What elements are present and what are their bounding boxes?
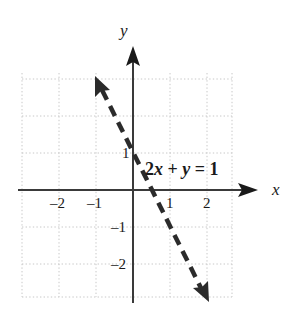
equation-variable-y: y [182,159,190,179]
y-axis-label: y [120,22,128,39]
x-tick-label-2: 2 [203,196,211,211]
x-axis-label: x [272,181,280,198]
grid-lines [22,73,232,297]
equation-plus-sign: + [168,159,178,179]
graph-figure: –2 –1 1 2 1 –1 –2 y x 2x + y = 1 [0,0,295,309]
equation-variable-x: x [154,159,163,179]
y-tick-label-1: 1 [122,146,130,161]
equation-label: 2x + y = 1 [145,160,219,178]
equation-constant: 1 [210,159,219,179]
x-tick-label-1: 1 [166,196,174,211]
x-tick-label-neg1: –1 [87,196,102,211]
y-tick-label-neg2: –2 [111,257,126,272]
coordinate-plane-svg [0,0,295,309]
x-tick-label-neg2: –2 [50,196,65,211]
equation-equals-sign: = [195,159,205,179]
y-tick-label-neg1: –1 [111,220,126,235]
equation-coefficient: 2 [145,159,154,179]
